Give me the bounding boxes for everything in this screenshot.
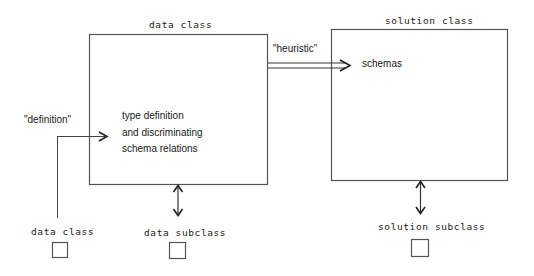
diagram-canvas: data class solution class type definitio…: [0, 0, 534, 276]
data-subclass-node-label: data subclass: [144, 227, 226, 238]
solution-subclass-node[interactable]: [412, 240, 429, 257]
solution-class-box: [332, 30, 508, 181]
definition-label: "definition": [24, 114, 71, 125]
data-box-line-2: and discriminating: [122, 127, 203, 138]
data-box-line-3: schema relations: [122, 143, 198, 154]
data-subclass-node[interactable]: [170, 243, 186, 259]
data-class-title: data class: [149, 19, 212, 30]
data-subclass-arrow: [174, 186, 183, 216]
heuristic-arrow: [268, 60, 350, 71]
data-class-node[interactable]: [53, 243, 68, 258]
solution-subclass-arrow: [416, 182, 425, 214]
solution-class-title: solution class: [385, 15, 473, 26]
data-box-line-1: type definition: [122, 110, 184, 121]
definition-arrow: [57, 132, 107, 218]
heuristic-label: "heuristic": [273, 43, 317, 54]
data-class-node-label: data class: [31, 226, 94, 237]
schemas-label: schemas: [362, 58, 402, 69]
solution-subclass-node-label: solution subclass: [378, 221, 485, 232]
